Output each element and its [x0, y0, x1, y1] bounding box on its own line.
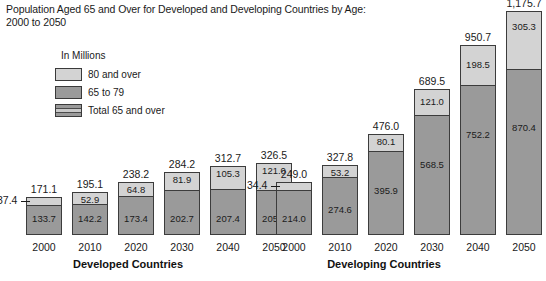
bar-segment-label-80-and-over: 198.5	[461, 59, 495, 70]
bar-segment-label-65-to-79: 207.4	[211, 213, 245, 224]
stacked-bar[interactable]: 64.8 173.4	[118, 182, 154, 235]
bar-segment-label-65-to-79: 752.2	[461, 129, 495, 140]
xtick-developed-2030: 2030	[159, 241, 205, 253]
bar-segment-80-and-over: 305.3	[507, 12, 541, 70]
bar-total-label: 476.0	[356, 120, 416, 132]
bar-segment-label-65-to-79: 568.5	[415, 159, 449, 170]
axis-title-developing-countries: Developing Countries	[256, 258, 512, 270]
xtick-developing-2030: 2030	[409, 241, 455, 253]
bar-segment-65-to-79: 752.2	[461, 86, 495, 234]
bar-group-developing-2020: 476.0 80.1 395.9	[368, 134, 404, 235]
bar-segment-80-and-over	[277, 183, 311, 191]
xtick-developing-2050: 2050	[501, 241, 546, 253]
xtick-developed-2020: 2020	[113, 241, 159, 253]
stacked-bar[interactable]: 105.3 207.4	[210, 166, 246, 235]
bar-segment-65-to-79: 274.6	[323, 178, 357, 234]
xtick-developed-2040: 2040	[205, 241, 251, 253]
bar-segment-65-to-79: 568.5	[415, 116, 449, 234]
stacked-bar[interactable]: 80.1 395.9	[368, 134, 404, 235]
axis-title-developed-countries: Developed Countries	[0, 258, 256, 270]
bar-segment-label-80-and-over: 52.9	[73, 194, 107, 205]
bar-segment-65-to-79: 133.7	[27, 206, 61, 234]
bar-segment-label-65-to-79: 142.2	[73, 213, 107, 224]
bar-segment-80-and-over: 105.3	[211, 167, 245, 190]
bar-segment-65-to-79: 214.0	[277, 191, 311, 234]
panel-developing-countries: 249.0 214.0 34.4 327.8 53.2 274.6	[256, 0, 512, 281]
xtick-developing-2020: 2020	[363, 241, 409, 253]
bar-segment-label-65-to-79: 214.0	[277, 213, 311, 224]
bar-segment-80-and-over: 198.5	[461, 46, 495, 86]
bar-group-developed-2010: 195.1 52.9 142.2	[72, 192, 108, 235]
bar-segment-80-and-over: 121.0	[415, 90, 449, 116]
bar-segment-80-and-over	[27, 198, 61, 206]
bar-segment-label-65-to-79: 395.9	[369, 185, 403, 196]
stacked-bar[interactable]: 81.9 202.7	[164, 172, 200, 235]
bar-segment-label-65-to-79: 870.4	[507, 122, 541, 133]
bar-callout-leader-line	[271, 186, 280, 187]
bar-group-developing-2050: 1,175.7 305.3 870.4	[506, 11, 542, 235]
bar-segment-80-and-over: 64.8	[119, 183, 153, 197]
stacked-bar[interactable]: 52.9 142.2	[72, 192, 108, 235]
bar-segment-65-to-79: 142.2	[73, 205, 107, 234]
bar-segment-label-80-and-over: 105.3	[211, 168, 245, 179]
bar-total-label: 327.8	[310, 151, 370, 163]
bar-segment-65-to-79: 395.9	[369, 152, 403, 234]
bar-segment-80-and-over: 52.9	[73, 193, 107, 205]
xtick-developing-2000: 2000	[271, 241, 317, 253]
bar-group-developed-2040: 312.7 105.3 207.4	[210, 166, 246, 235]
bar-total-label: 249.0	[264, 168, 324, 180]
bar-group-developing-2040: 950.7 198.5 752.2	[460, 45, 496, 235]
bar-segment-65-to-79: 202.7	[165, 191, 199, 234]
bar-total-label: 689.5	[402, 75, 462, 87]
bar-segment-80-and-over: 81.9	[165, 173, 199, 191]
panel-developed-countries: 171.1 133.7 37.4 195.1 52.9 142.2	[0, 0, 256, 281]
xtick-developing-2040: 2040	[455, 241, 501, 253]
bar-segment-65-to-79: 870.4	[507, 70, 541, 234]
stacked-bar[interactable]: 53.2 274.6	[322, 165, 358, 235]
bar-segment-label-80-and-over: 80.1	[369, 136, 403, 147]
bar-total-label: 950.7	[448, 31, 508, 43]
bar-segment-label-65-to-79: 202.7	[165, 213, 199, 224]
bar-segment-label-65-to-79: 133.7	[27, 213, 61, 224]
bar-group-developing-2010: 327.8 53.2 274.6	[322, 165, 358, 235]
bar-segment-label-80-and-over: 121.0	[415, 96, 449, 107]
stacked-bar[interactable]: 305.3 870.4	[506, 11, 542, 235]
bar-group-developed-2030: 284.2 81.9 202.7	[164, 172, 200, 235]
stacked-bar[interactable]: 214.0	[276, 182, 312, 235]
stacked-bar[interactable]: 198.5 752.2	[460, 45, 496, 235]
bar-segment-label-80-and-over: 81.9	[165, 174, 199, 185]
bar-group-developing-2030: 689.5 121.0 568.5	[414, 89, 450, 235]
stacked-bar[interactable]: 121.0 568.5	[414, 89, 450, 235]
bar-group-developed-2000: 171.1 133.7 37.4	[26, 197, 62, 235]
bar-segment-label-80-and-over: 53.2	[323, 167, 357, 178]
bar-callout-label-80-and-over: 37.4	[0, 194, 17, 206]
bar-segment-label-80-and-over: 305.3	[507, 21, 541, 32]
bar-group-developed-2020: 238.2 64.8 173.4	[118, 182, 154, 235]
bar-segment-65-to-79: 173.4	[119, 197, 153, 234]
bar-segment-80-and-over: 80.1	[369, 135, 403, 152]
bar-segment-label-65-to-79: 173.4	[119, 213, 153, 224]
xtick-developing-2010: 2010	[317, 241, 363, 253]
xtick-developed-2010: 2010	[67, 241, 113, 253]
bar-callout-leader-line	[21, 201, 30, 202]
stacked-bar[interactable]: 133.7	[26, 197, 62, 235]
bar-total-label: 1,175.7	[494, 0, 546, 9]
bar-segment-label-80-and-over: 64.8	[119, 184, 153, 195]
bar-segment-80-and-over: 53.2	[323, 166, 357, 178]
bar-group-developing-2000: 249.0 214.0 34.4	[276, 182, 312, 235]
bar-segment-65-to-79: 207.4	[211, 190, 245, 234]
bar-segment-label-65-to-79: 274.6	[323, 204, 357, 215]
chart-footnote	[100, 275, 512, 281]
xtick-developed-2000: 2000	[21, 241, 67, 253]
bar-callout-label-80-and-over: 34.4	[247, 179, 267, 191]
